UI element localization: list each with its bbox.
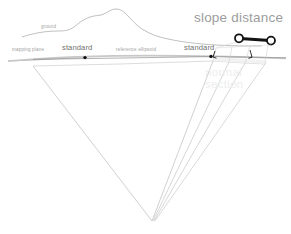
label-normal-section-line1: normal: [205, 67, 244, 79]
slope-distance-line: [240, 39, 270, 41]
slope-distance-measure: [235, 34, 275, 44]
page-title: slope distance: [194, 10, 283, 25]
label-normal-section-line2: section: [205, 79, 244, 91]
slope-endpoint-left-icon: [235, 34, 243, 42]
label-reference-ellipsoid: reference ellipsoid: [116, 47, 156, 52]
cone-ray-inner-a: [152, 61, 213, 221]
label-mapping-plane: mapping plane: [12, 47, 44, 52]
station-dot-left: [83, 56, 86, 59]
slope-distance-diagram: slope distance ground mapping plane stan…: [0, 0, 291, 234]
label-standard-right: standard: [184, 43, 214, 52]
label-ground: ground: [41, 24, 56, 29]
label-normal-section: normal section: [205, 67, 244, 90]
diagram-canvas: [0, 0, 291, 234]
cone-ray-outer-left: [33, 66, 152, 221]
plane-edge-4: [265, 45, 268, 64]
label-standard-left: standard: [62, 43, 92, 52]
slope-endpoint-right-icon: [267, 37, 275, 45]
station-dot-right: [209, 55, 212, 58]
